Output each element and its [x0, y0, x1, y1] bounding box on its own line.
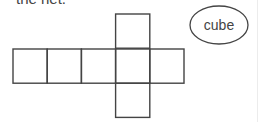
label-bubble: cube	[190, 6, 248, 44]
cube-net-diagram: cube	[0, 0, 261, 122]
net-square-r1-c1	[47, 49, 81, 83]
label-text: cube	[204, 17, 235, 33]
net-square-r0-c3	[116, 14, 150, 48]
net-square-r1-c0	[13, 49, 47, 83]
net-square-r1-c3	[116, 49, 150, 83]
net-square-r1-c2	[81, 49, 115, 83]
net-square-r1-c4	[150, 49, 184, 83]
right-edge-divider	[257, 0, 258, 122]
net-square-r2-c3	[116, 83, 150, 117]
net-squares	[13, 14, 184, 117]
